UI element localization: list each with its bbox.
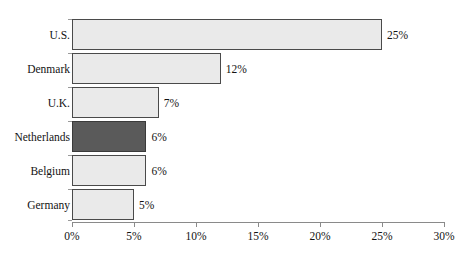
bar-value-label: 5% [139,199,154,211]
bar-u-k [72,87,159,118]
bar-belgium [72,155,146,186]
x-axis-tick-label: 5% [126,230,141,243]
bar-value-label: 6% [151,165,166,177]
plot-area: U.S.25%Denmark12%U.K.7%Netherlands6%Belg… [0,0,464,258]
x-axis-tick-label: 15% [247,230,268,243]
x-axis-tick-label: 0% [64,230,79,243]
bar-denmark [72,53,221,84]
bar-u-s [72,19,382,50]
x-axis-tick [320,222,321,227]
bar-value-label: 12% [226,63,247,75]
bar-value-label: 6% [151,131,166,143]
x-axis-tick [134,222,135,227]
bar-chart: ······························ U.S.25%De… [0,0,464,258]
x-axis-tick [72,222,73,227]
x-axis-tick-label: 25% [371,230,392,243]
bar-netherlands [72,121,146,152]
category-tick [68,220,72,221]
bar-value-label: 7% [164,97,179,109]
x-axis-tick [258,222,259,227]
x-axis-tick [444,222,445,227]
bar-germany [72,189,134,220]
category-label: Belgium [30,165,70,177]
x-axis-tick-label: 10% [185,230,206,243]
category-label: Denmark [27,63,70,75]
x-axis-tick-label: 30% [433,230,454,243]
bar-value-label: 25% [387,29,408,41]
category-label: U.K. [48,97,70,109]
category-label: Germany [27,199,70,211]
x-axis-tick [382,222,383,227]
x-axis-tick [196,222,197,227]
category-label: U.S. [50,29,70,41]
category-label: Netherlands [14,131,70,143]
x-axis-tick-label: 20% [309,230,330,243]
